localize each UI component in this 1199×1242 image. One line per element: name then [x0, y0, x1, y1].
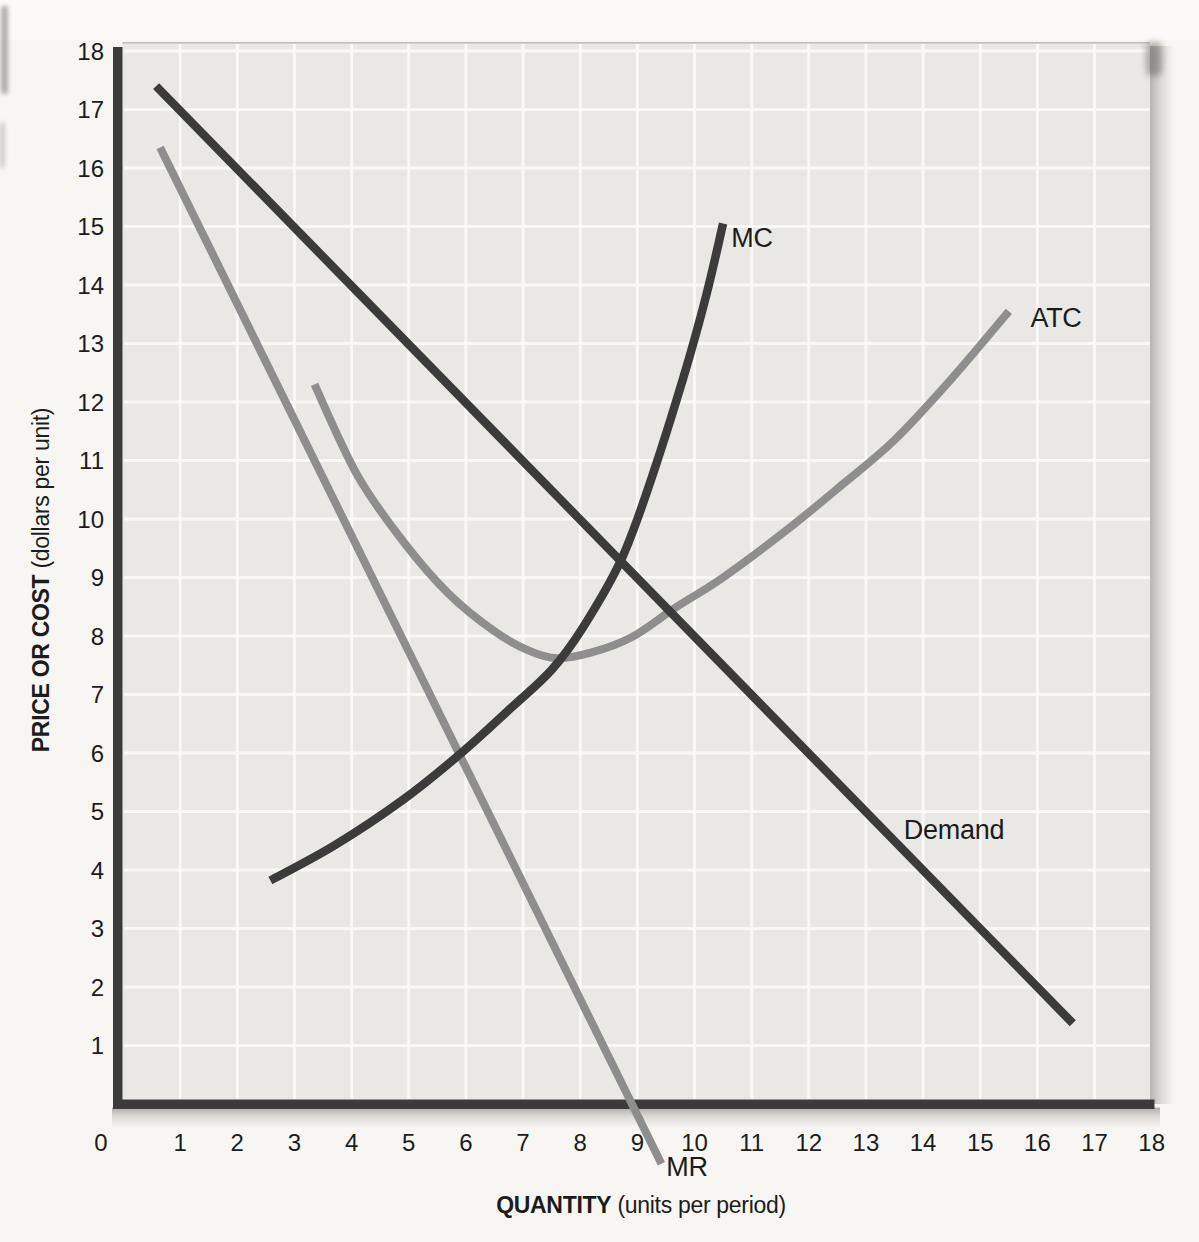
- y-tick-label-6: 6: [91, 740, 104, 767]
- y-tick-label-15: 15: [77, 213, 104, 240]
- x-axis-title-main: QUANTITY: [496, 1192, 611, 1218]
- x-axis-title-unit: (units per period): [611, 1192, 786, 1218]
- x-tick-label-11: 11: [739, 1129, 764, 1156]
- chart-canvas: 1234567891011121314151617180123456789101…: [0, 0, 1199, 1242]
- x-tick-label-2: 2: [231, 1129, 244, 1156]
- y-tick-label-9: 9: [91, 564, 104, 591]
- textbook-figure-page: 1234567891011121314151617180123456789101…: [0, 0, 1199, 1242]
- y-tick-label-13: 13: [77, 330, 104, 357]
- x-tick-label-15: 15: [967, 1129, 994, 1156]
- scan-artifact: [0, 122, 5, 168]
- y-tick-label-10: 10: [77, 506, 104, 533]
- x-tick-label-17: 17: [1081, 1129, 1108, 1156]
- y-tick-label-11: 11: [79, 447, 104, 474]
- x-tick-label-18: 18: [1138, 1129, 1165, 1156]
- x-tick-label-4: 4: [345, 1129, 358, 1156]
- y-tick-label-18: 18: [77, 38, 104, 65]
- curve-label-atc: ATC: [1030, 303, 1081, 333]
- x-tick-label-9: 9: [631, 1129, 644, 1156]
- x-tick-label-6: 6: [459, 1129, 472, 1156]
- y-tick-label-8: 8: [91, 623, 104, 650]
- x-tick-label-0: 0: [94, 1129, 107, 1156]
- y-axis-title-unit: (dollars per unit): [28, 408, 54, 575]
- x-tick-label-7: 7: [516, 1129, 529, 1156]
- y-tick-label-3: 3: [91, 915, 104, 942]
- x-axis-title: QUANTITY (units per period): [341, 1192, 941, 1219]
- x-tick-label-1: 1: [173, 1129, 186, 1156]
- x-tick-label-3: 3: [288, 1129, 301, 1156]
- y-tick-label-12: 12: [77, 389, 104, 416]
- x-tick-label-16: 16: [1024, 1129, 1051, 1156]
- x-tick-label-5: 5: [402, 1129, 415, 1156]
- plot-top-border: [123, 42, 1151, 44]
- y-tick-label-5: 5: [91, 798, 104, 825]
- x-tick-label-13: 13: [853, 1129, 880, 1156]
- x-tick-label-12: 12: [795, 1129, 822, 1156]
- curve-label-mc: MC: [731, 223, 772, 253]
- x-tick-label-8: 8: [574, 1129, 587, 1156]
- scan-shadow-right: [1150, 46, 1174, 1104]
- y-tick-label-4: 4: [91, 857, 104, 884]
- curve-label-mr: MR: [666, 1152, 707, 1182]
- y-tick-label-2: 2: [91, 974, 104, 1001]
- curve-label-demand: Demand: [904, 815, 1004, 845]
- y-tick-label-14: 14: [77, 272, 104, 299]
- y-tick-label-16: 16: [77, 155, 104, 182]
- y-axis-title: PRICE OR COST (dollars per unit): [28, 330, 56, 830]
- x-tick-label-14: 14: [910, 1129, 937, 1156]
- scan-artifact: [1, 6, 8, 94]
- y-tick-label-1: 1: [91, 1032, 104, 1059]
- scan-shadow-corner: [1146, 42, 1162, 76]
- y-axis-line: [113, 47, 123, 1109]
- y-tick-label-17: 17: [77, 96, 104, 123]
- y-axis-title-main: PRICE OR COST: [28, 575, 54, 753]
- y-tick-label-7: 7: [91, 681, 104, 708]
